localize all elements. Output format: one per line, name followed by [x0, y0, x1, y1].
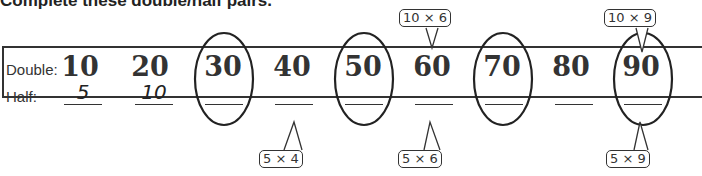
- circle-marker: [474, 33, 532, 125]
- hint-callout: 5 × 6: [398, 150, 442, 168]
- callout-pointer: [426, 28, 438, 48]
- hint-callout: 10 × 6: [399, 9, 451, 27]
- circle-marker: [335, 33, 393, 125]
- hint-callout: 5 × 4: [259, 150, 303, 168]
- hint-callout: 5 × 9: [606, 150, 650, 168]
- callout-pointer: [424, 122, 440, 150]
- callout-pointer: [284, 122, 302, 150]
- hint-callout: 10 × 9: [604, 9, 656, 27]
- callout-pointer: [636, 28, 648, 52]
- callout-pointer: [634, 122, 648, 150]
- circle-marker: [195, 33, 253, 125]
